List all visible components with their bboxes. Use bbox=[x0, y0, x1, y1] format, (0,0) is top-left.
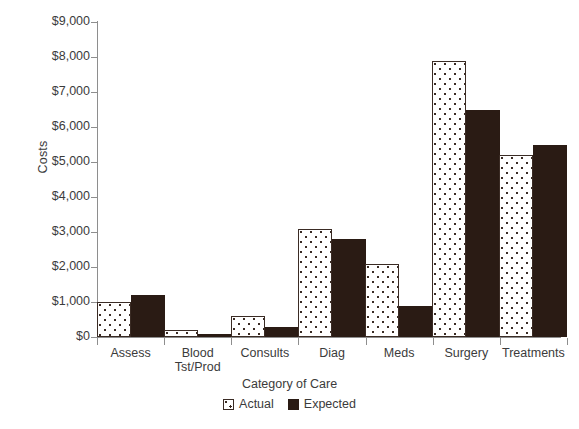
x-axis-title: Category of Care bbox=[0, 377, 579, 391]
x-axis-category-label-line: Assess bbox=[110, 346, 150, 360]
bar-actual-1 bbox=[164, 330, 198, 337]
y-axis-tick-mark bbox=[91, 302, 97, 303]
x-axis-tick-mark bbox=[433, 338, 434, 345]
y-axis-tick-mark bbox=[91, 57, 97, 58]
x-axis-category-label: Consults bbox=[231, 346, 298, 360]
x-axis-category-label-line: Surgery bbox=[444, 346, 488, 360]
bar-actual-5 bbox=[432, 61, 466, 338]
x-axis-line bbox=[97, 337, 561, 338]
bar-actual-2 bbox=[231, 316, 265, 337]
y-axis-tick-label: $6,000 bbox=[30, 120, 90, 133]
x-axis-category-label: Assess bbox=[97, 346, 164, 360]
x-axis-tick-mark bbox=[164, 338, 165, 345]
x-axis-category-label: Surgery bbox=[433, 346, 500, 360]
x-axis-category-label: Treatments bbox=[500, 346, 567, 360]
bar-actual-0 bbox=[97, 302, 131, 337]
y-axis-tick-mark bbox=[91, 232, 97, 233]
y-axis-tick-label: $4,000 bbox=[30, 190, 90, 203]
y-axis-tick-label: $1,000 bbox=[30, 295, 90, 308]
x-axis-category-label: Diag bbox=[298, 346, 365, 360]
y-axis-tick-mark bbox=[91, 127, 97, 128]
x-axis-category-label-line: Meds bbox=[384, 346, 415, 360]
x-axis-category-label-line: Treatments bbox=[502, 346, 565, 360]
x-axis-tick-mark bbox=[97, 338, 98, 345]
bar-actual-6 bbox=[499, 155, 533, 337]
bar-expected-6 bbox=[533, 145, 567, 338]
bar-expected-1 bbox=[198, 334, 232, 338]
legend-label-actual: Actual bbox=[239, 397, 274, 411]
x-axis-category-label-line: Blood bbox=[182, 346, 214, 360]
y-axis-tick-labels: $0$1,000$2,000$3,000$4,000$5,000$6,000$7… bbox=[28, 0, 90, 429]
chart-legend: Actual Expected bbox=[0, 397, 579, 411]
y-axis-tick-mark bbox=[91, 267, 97, 268]
x-axis-tick-mark bbox=[231, 338, 232, 345]
y-axis-tick-mark bbox=[91, 197, 97, 198]
y-axis-tick-label: $5,000 bbox=[30, 155, 90, 168]
bar-expected-5 bbox=[466, 110, 500, 338]
bar-expected-0 bbox=[131, 295, 165, 337]
legend-label-expected: Expected bbox=[304, 397, 356, 411]
y-axis-tick-label: $9,000 bbox=[30, 15, 90, 28]
legend-item-expected: Expected bbox=[288, 397, 356, 411]
x-axis-tick-mark bbox=[567, 338, 568, 345]
x-axis-category-label: BloodTst/Prod bbox=[164, 346, 231, 374]
bar-expected-3 bbox=[332, 239, 366, 337]
x-axis-category-label-line: Consults bbox=[241, 346, 290, 360]
y-axis-tick-mark bbox=[91, 162, 97, 163]
bar-actual-4 bbox=[365, 264, 399, 338]
x-axis-category-label: Meds bbox=[366, 346, 433, 360]
y-axis-tick-label: $8,000 bbox=[30, 50, 90, 63]
legend-item-actual: Actual bbox=[223, 397, 274, 411]
y-axis-tick-mark bbox=[91, 92, 97, 93]
bar-expected-4 bbox=[399, 306, 433, 338]
y-axis-tick-label: $2,000 bbox=[30, 260, 90, 273]
y-axis-tick-mark bbox=[91, 22, 97, 23]
x-axis-tick-mark bbox=[500, 338, 501, 345]
bar-actual-3 bbox=[298, 229, 332, 338]
y-axis-tick-label: $0 bbox=[30, 330, 90, 343]
legend-swatch-expected-icon bbox=[288, 399, 299, 410]
bar-expected-2 bbox=[265, 327, 299, 338]
bar-chart: Costs $0$1,000$2,000$3,000$4,000$5,000$6… bbox=[0, 0, 579, 429]
legend-swatch-actual-icon bbox=[223, 399, 234, 410]
x-axis-tick-mark bbox=[366, 338, 367, 345]
y-axis-tick-label: $7,000 bbox=[30, 85, 90, 98]
x-axis-category-label-line: Diag bbox=[319, 346, 345, 360]
x-axis-category-label-line: Tst/Prod bbox=[164, 360, 231, 374]
x-axis-tick-mark bbox=[298, 338, 299, 345]
plot-area bbox=[97, 22, 567, 337]
y-axis-tick-label: $3,000 bbox=[30, 225, 90, 238]
